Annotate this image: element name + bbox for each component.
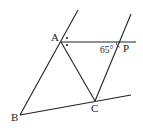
angle-mark-c-right: °	[99, 95, 101, 100]
point-label-A: A	[51, 31, 59, 43]
line-BC-extended	[20, 95, 131, 115]
line-BA-extended	[20, 10, 78, 115]
angle-mark-dot-upper	[66, 37, 68, 39]
angle-mark-dot-lower	[66, 44, 68, 46]
angle-mark-c-left: °	[92, 92, 94, 97]
point-label-B: B	[11, 111, 18, 123]
angle-label-65: 65°	[100, 45, 114, 55]
geometry-diagram: ° ° A P B C 65°	[0, 0, 143, 129]
point-label-P: P	[123, 42, 129, 54]
point-label-C: C	[91, 102, 98, 114]
line-CP-extended	[95, 14, 131, 101]
segment-AC	[61, 42, 95, 101]
